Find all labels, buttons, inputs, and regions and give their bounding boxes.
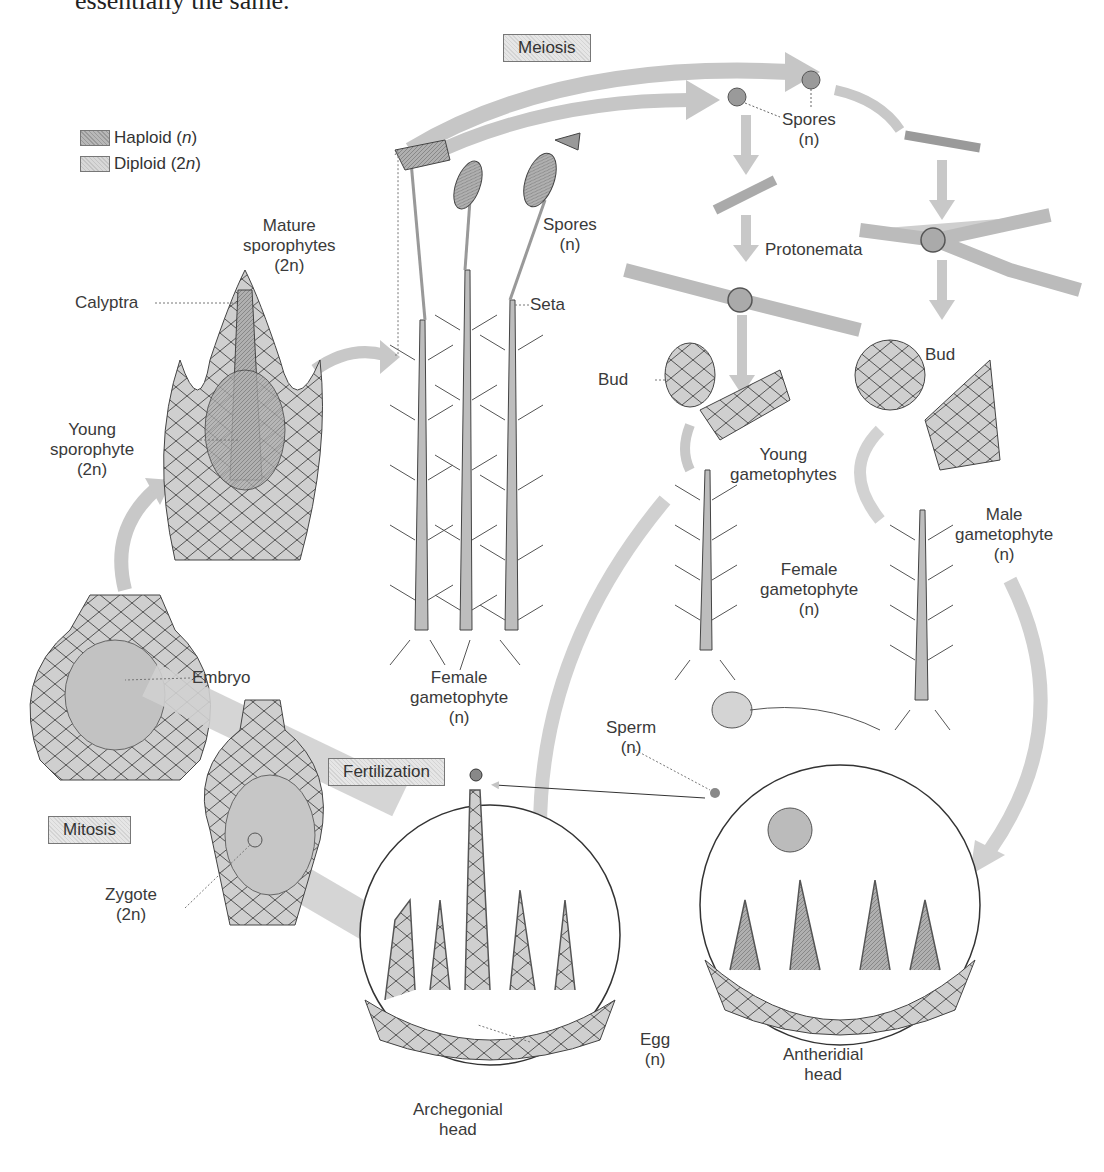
label-bud-left: Bud [598,370,628,390]
protonemata-drawings [625,135,1080,330]
capsules [395,133,580,213]
sperm-to-egg-arrow [495,785,705,798]
haploid-swatch [80,130,110,146]
label-archegonial-head: Archegonial head [413,1100,503,1140]
label-embryo: Embryo [192,668,251,688]
arrow-to-antheridial-head [990,580,1041,850]
label-young-gametophytes: Young gametophytes [730,445,837,485]
spore-2 [802,71,820,89]
archegonial-head-drawing [360,769,620,1065]
fertilization-box: Fertilization [328,758,445,786]
meiosis-box: Meiosis [503,34,591,62]
label-egg: Egg (n) [640,1030,670,1070]
spore-1 [728,88,746,106]
label-bud-right: Bud [925,345,955,365]
label-spores-capsule: Spores (n) [543,215,597,255]
legend-item-diploid: Diploid (2n) [80,151,201,177]
label-female-gametophyte-left: Female gametophyte (n) [410,668,508,728]
label-calyptra: Calyptra [75,293,138,313]
label-protonemata: Protonemata [765,240,862,260]
moss-life-cycle-diagram: essentially the same. [0,0,1104,1172]
label-female-gametophyte-mid: Female gametophyte (n) [760,560,858,620]
legend-item-haploid: Haploid (n) [80,125,201,151]
label-mature-sporophytes: Mature sporophytes (2n) [243,216,336,276]
arrow-to-archegonial-head [540,500,665,830]
label-antheridial-head: Antheridial head [783,1045,863,1085]
label-sperm: Sperm (n) [606,718,656,758]
diploid-swatch [80,156,110,172]
young-sporophyte-drawing [164,270,323,560]
meiosis-arrows [410,52,820,160]
antheridial-head-drawing [700,765,980,1045]
label-male-gametophyte: Male gametophyte (n) [955,505,1053,565]
mitosis-box: Mitosis [48,816,131,844]
label-young-sporophyte: Young sporophyte (2n) [50,420,134,480]
legend: Haploid (n) Diploid (2n) [80,125,201,177]
label-zygote: Zygote (2n) [105,885,157,925]
label-seta: Seta [530,295,565,315]
label-spores-top: Spores (n) [782,110,836,150]
